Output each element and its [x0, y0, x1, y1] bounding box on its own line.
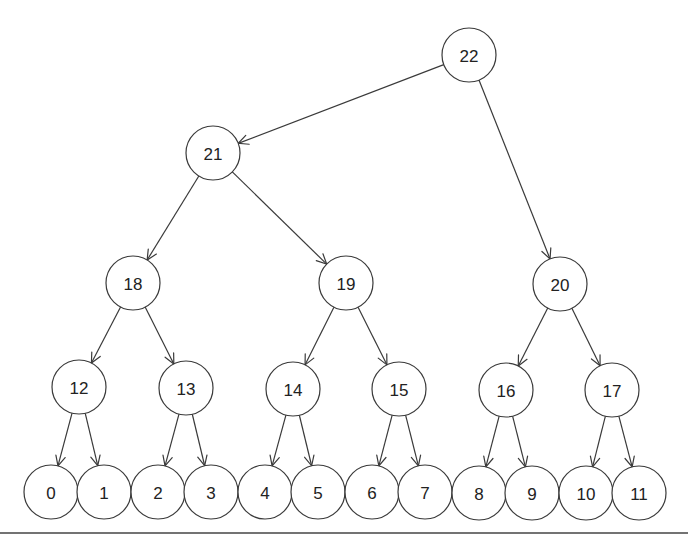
edge-21-to-18	[147, 176, 199, 260]
tree-node-22: 22	[442, 28, 496, 82]
tree-node-14: 14	[266, 362, 320, 416]
tree-node-3: 3	[184, 465, 238, 519]
tree-node-16: 16	[479, 363, 533, 417]
tree-node-10: 10	[559, 466, 613, 520]
edge-17-to-11	[619, 416, 634, 467]
edge-12-to-1	[85, 413, 100, 465]
node-label: 15	[390, 381, 409, 400]
node-label: 21	[204, 145, 223, 164]
edge-line	[358, 307, 387, 365]
tree-node-13: 13	[159, 361, 213, 415]
node-label: 19	[337, 275, 356, 294]
edge-20-to-17	[572, 308, 600, 366]
tree-diagram: 222118192012131415161701234567891011	[0, 0, 688, 548]
node-label: 7	[420, 484, 429, 503]
tree-node-0: 0	[24, 465, 78, 519]
tree-node-12: 12	[52, 360, 106, 414]
edge-14-to-5	[299, 415, 314, 466]
edge-line	[238, 65, 444, 144]
node-label: 12	[70, 379, 89, 398]
nodes-layer: 222118192012131415161701234567891011	[24, 28, 666, 520]
node-label: 3	[206, 484, 215, 503]
node-label: 13	[177, 380, 196, 399]
tree-node-8: 8	[452, 466, 506, 520]
tree-node-15: 15	[372, 362, 426, 416]
edge-line	[572, 308, 600, 366]
tree-node-7: 7	[398, 465, 452, 519]
edge-13-to-3	[192, 414, 207, 465]
node-label: 18	[124, 275, 143, 294]
edge-19-to-14	[305, 307, 334, 365]
edge-line	[518, 308, 547, 366]
node-label: 0	[46, 484, 55, 503]
edge-line	[145, 307, 174, 364]
tree-node-11: 11	[612, 466, 666, 520]
node-label: 6	[367, 484, 376, 503]
edge-12-to-0	[56, 413, 72, 466]
tree-node-1: 1	[77, 465, 131, 519]
edge-16-to-8	[484, 416, 499, 467]
edge-14-to-4	[270, 415, 286, 466]
edge-16-to-9	[513, 416, 528, 467]
edge-15-to-7	[406, 415, 421, 466]
node-label: 5	[313, 484, 322, 503]
edge-13-to-2	[163, 414, 179, 466]
tree-node-4: 4	[238, 465, 292, 519]
tree-node-6: 6	[345, 465, 399, 519]
edge-line	[91, 307, 120, 363]
edge-line	[147, 176, 199, 260]
tree-node-20: 20	[533, 257, 587, 311]
node-label: 17	[603, 382, 622, 401]
node-label: 10	[577, 485, 596, 504]
edge-line	[232, 172, 326, 264]
node-label: 14	[284, 381, 303, 400]
node-label: 9	[527, 485, 536, 504]
edge-19-to-15	[358, 307, 387, 365]
tree-node-5: 5	[291, 465, 345, 519]
tree-node-9: 9	[505, 466, 559, 520]
edge-20-to-16	[518, 308, 547, 366]
node-label: 20	[551, 276, 570, 295]
edge-18-to-12	[91, 307, 120, 363]
node-label: 16	[497, 382, 516, 401]
node-label: 1	[99, 484, 108, 503]
edge-line	[305, 307, 334, 365]
tree-node-17: 17	[585, 363, 639, 417]
node-label: 22	[460, 47, 479, 66]
tree-node-21: 21	[186, 126, 240, 180]
node-label: 4	[260, 484, 269, 503]
edge-22-to-20	[479, 80, 551, 259]
edge-15-to-6	[377, 415, 392, 466]
tree-node-2: 2	[131, 465, 185, 519]
edge-line	[479, 80, 550, 259]
tree-node-19: 19	[319, 256, 373, 310]
node-label: 11	[630, 485, 648, 504]
edge-22-to-21	[238, 65, 444, 145]
edge-17-to-10	[590, 416, 605, 467]
node-label: 2	[153, 484, 162, 503]
edge-18-to-13	[145, 307, 174, 364]
node-label: 8	[474, 485, 483, 504]
edge-21-to-19	[232, 172, 326, 264]
tree-node-18: 18	[106, 256, 160, 310]
